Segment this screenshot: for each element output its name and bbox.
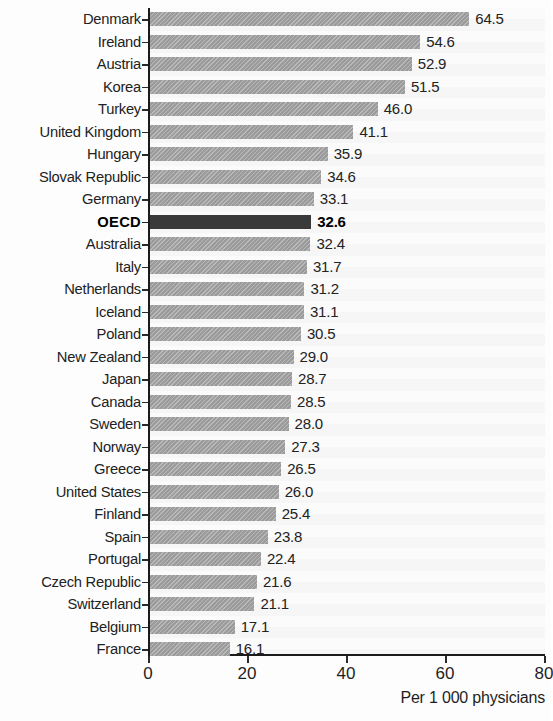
bar-value-label: 54.6 — [426, 33, 454, 51]
bar — [150, 35, 420, 49]
bar-row: 32.6 — [150, 211, 545, 234]
y-axis-tick — [142, 154, 148, 156]
plot-area: 64.554.652.951.546.041.135.934.633.132.6… — [148, 8, 545, 656]
category-label: Korea — [7, 76, 141, 99]
y-axis-tick — [142, 559, 148, 561]
category-label: New Zealand — [7, 346, 141, 369]
bar — [150, 305, 304, 319]
x-axis-tick-label: 20 — [238, 663, 257, 685]
x-axis-tick-label: 0 — [143, 663, 152, 685]
bar-value-label: 64.5 — [475, 10, 503, 28]
x-axis-tick-label: 60 — [436, 663, 455, 685]
x-axis-tick — [148, 656, 150, 663]
bar — [150, 642, 230, 656]
y-axis-tick — [142, 357, 148, 359]
y-axis-tick — [142, 514, 148, 516]
bar — [150, 102, 378, 116]
x-axis-tick — [544, 656, 546, 663]
bar — [150, 170, 321, 184]
bar-value-label: 28.7 — [298, 370, 326, 388]
category-label: Japan — [7, 368, 141, 391]
bar-value-label: 46.0 — [384, 100, 412, 118]
bar — [150, 125, 353, 139]
bar — [150, 620, 235, 634]
y-axis-tick — [142, 109, 148, 111]
bar-value-label: 30.5 — [307, 325, 335, 343]
y-axis-tick — [142, 424, 148, 426]
y-axis-tick — [142, 87, 148, 89]
bar — [150, 260, 307, 274]
bar — [150, 440, 285, 454]
bar-value-label: 28.0 — [295, 415, 323, 433]
category-label: Poland — [7, 323, 141, 346]
bar — [150, 462, 281, 476]
category-label: OECD — [7, 211, 141, 234]
bar-value-label: 41.1 — [359, 123, 387, 141]
bar-value-label: 22.4 — [267, 550, 295, 568]
bar-row: 54.6 — [150, 31, 545, 54]
bar-value-label: 31.1 — [310, 303, 338, 321]
category-label: Germany — [7, 188, 141, 211]
bar-row: 32.4 — [150, 233, 545, 256]
category-label: Switzerland — [7, 593, 141, 616]
y-axis-tick — [142, 312, 148, 314]
bar — [150, 237, 310, 251]
bar-value-label: 51.5 — [411, 78, 439, 96]
category-label: Finland — [7, 503, 141, 526]
bar — [150, 147, 328, 161]
bar-row: 21.1 — [150, 593, 545, 616]
y-axis-tick — [142, 492, 148, 494]
y-axis-tick — [142, 42, 148, 44]
bar-row: 28.5 — [150, 391, 545, 414]
category-label: Belgium — [7, 616, 141, 639]
bar — [150, 485, 279, 499]
bar-row: 46.0 — [150, 98, 545, 121]
bar — [150, 417, 289, 431]
category-label: Spain — [7, 526, 141, 549]
y-axis-tick — [142, 402, 148, 404]
x-axis-tick — [445, 656, 447, 663]
bar-value-label: 25.4 — [282, 505, 310, 523]
bar — [150, 530, 268, 544]
bar — [150, 507, 276, 521]
bar-row: 34.6 — [150, 166, 545, 189]
bar-value-label: 29.0 — [300, 348, 328, 366]
bar-row: 64.5 — [150, 8, 545, 31]
bar-row: 21.6 — [150, 571, 545, 594]
y-axis-tick — [142, 199, 148, 201]
x-axis-tick — [346, 656, 348, 663]
bar-row: 27.3 — [150, 436, 545, 459]
y-axis-tick — [142, 627, 148, 629]
bar-value-label: 28.5 — [297, 393, 325, 411]
bar-value-label: 32.6 — [317, 213, 345, 231]
bar-value-label: 26.0 — [285, 483, 313, 501]
category-label: Slovak Republic — [7, 166, 141, 189]
y-axis-tick — [142, 267, 148, 269]
category-label: Canada — [7, 391, 141, 414]
category-label: France — [7, 638, 141, 661]
bar-value-label: 27.3 — [291, 438, 319, 456]
bar-row: 26.5 — [150, 458, 545, 481]
y-axis-tick — [142, 64, 148, 66]
category-label: Portugal — [7, 548, 141, 571]
bar — [150, 372, 292, 386]
category-axis-labels: DenmarkIrelandAustriaKoreaTurkeyUnited K… — [0, 8, 141, 656]
bar-row: 51.5 — [150, 76, 545, 99]
bar — [150, 575, 257, 589]
category-label: Austria — [7, 53, 141, 76]
bar-value-label: 31.2 — [310, 280, 338, 298]
bar-row: 35.9 — [150, 143, 545, 166]
x-axis-tick-label: 80 — [535, 663, 553, 685]
bar — [150, 215, 311, 229]
x-axis-caption: Per 1 000 physicians — [400, 689, 545, 707]
bar-row: 33.1 — [150, 188, 545, 211]
bar-value-label: 52.9 — [418, 55, 446, 73]
y-axis-tick — [142, 132, 148, 134]
bar — [150, 395, 291, 409]
bar-row: 26.0 — [150, 481, 545, 504]
y-axis-tick — [142, 289, 148, 291]
bar-row: 52.9 — [150, 53, 545, 76]
bar-value-label: 31.7 — [313, 258, 341, 276]
bar-value-label: 33.1 — [320, 190, 348, 208]
